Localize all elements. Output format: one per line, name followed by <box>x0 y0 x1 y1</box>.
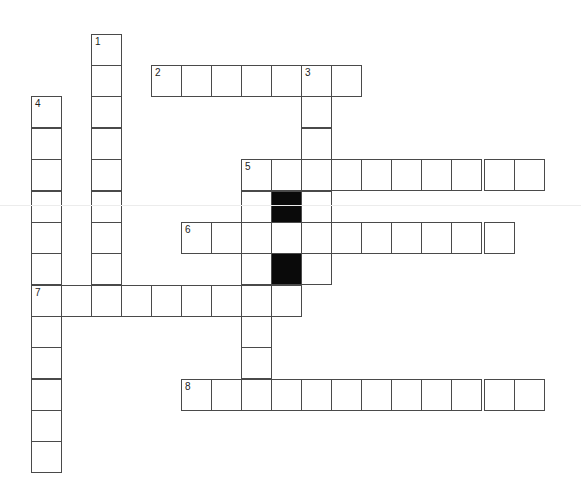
black-cell <box>271 253 302 285</box>
crossword-cell[interactable] <box>331 379 362 411</box>
crossword-cell[interactable] <box>301 96 332 128</box>
crossword-cell[interactable] <box>211 379 242 411</box>
crossword-cell[interactable] <box>91 128 122 160</box>
crossword-cell[interactable] <box>31 159 62 191</box>
crossword-cell[interactable] <box>31 410 62 442</box>
crossword-cell[interactable] <box>301 379 332 411</box>
crossword-cell[interactable] <box>91 285 122 317</box>
crossword-cell[interactable] <box>151 285 182 317</box>
crossword-cell[interactable] <box>181 65 212 97</box>
scan-artifact-line <box>0 205 581 206</box>
crossword-cell[interactable] <box>91 191 122 223</box>
crossword-cell[interactable] <box>91 222 122 254</box>
crossword-cell[interactable] <box>301 253 332 285</box>
crossword-cell[interactable] <box>484 379 515 411</box>
crossword-cell[interactable] <box>241 191 272 223</box>
crossword-cell[interactable] <box>484 222 515 254</box>
crossword-cell[interactable] <box>451 379 482 411</box>
crossword-cell[interactable] <box>31 316 62 348</box>
clue-number: 1 <box>95 37 101 47</box>
crossword-cell[interactable]: 5 <box>241 159 272 191</box>
crossword-cell[interactable] <box>31 222 62 254</box>
clue-number: 4 <box>35 99 41 109</box>
crossword-cell[interactable] <box>391 159 422 191</box>
crossword-cell[interactable] <box>241 253 272 285</box>
crossword-cell[interactable] <box>241 65 272 97</box>
crossword-cell[interactable] <box>271 159 302 191</box>
crossword-cell[interactable] <box>271 65 302 97</box>
crossword-cell[interactable] <box>451 222 482 254</box>
crossword-cell[interactable] <box>241 379 272 411</box>
crossword-cell[interactable] <box>241 347 272 379</box>
crossword-cell[interactable] <box>271 285 302 317</box>
crossword-cell[interactable] <box>421 222 452 254</box>
crossword-cell[interactable] <box>211 285 242 317</box>
crossword-cell[interactable] <box>91 159 122 191</box>
clue-number: 6 <box>185 225 191 235</box>
crossword-cell[interactable]: 2 <box>151 65 182 97</box>
crossword-cell[interactable] <box>91 96 122 128</box>
crossword-cell[interactable] <box>361 222 392 254</box>
crossword-cell[interactable] <box>181 285 212 317</box>
crossword-cell[interactable] <box>361 159 392 191</box>
crossword-cell[interactable] <box>31 441 62 473</box>
crossword-cell[interactable] <box>514 379 545 411</box>
crossword-cell[interactable] <box>241 222 272 254</box>
crossword-cell[interactable] <box>331 65 362 97</box>
clue-number: 5 <box>245 162 251 172</box>
crossword-cell[interactable]: 7 <box>31 285 62 317</box>
crossword-cell[interactable] <box>211 222 242 254</box>
crossword-cell[interactable] <box>331 222 362 254</box>
crossword-cell[interactable] <box>271 379 302 411</box>
crossword-cell[interactable] <box>31 347 62 379</box>
crossword-cell[interactable]: 6 <box>181 222 212 254</box>
clue-number: 8 <box>185 382 191 392</box>
crossword-cell[interactable]: 3 <box>301 65 332 97</box>
crossword-cell[interactable] <box>271 222 302 254</box>
crossword-cell[interactable] <box>391 222 422 254</box>
crossword-cell[interactable] <box>451 159 482 191</box>
crossword-cell[interactable] <box>31 191 62 223</box>
crossword-cell[interactable] <box>91 253 122 285</box>
crossword-cell[interactable] <box>514 159 545 191</box>
crossword-cell[interactable]: 4 <box>31 96 62 128</box>
crossword-cell[interactable] <box>31 128 62 160</box>
crossword-cell[interactable] <box>301 128 332 160</box>
crossword-cell[interactable] <box>331 159 362 191</box>
black-cell <box>271 191 302 223</box>
crossword-cell[interactable] <box>61 285 92 317</box>
crossword-cell[interactable] <box>241 316 272 348</box>
clue-number: 2 <box>155 68 161 78</box>
crossword-cell[interactable] <box>301 159 332 191</box>
crossword-cell[interactable] <box>31 379 62 411</box>
crossword-cell[interactable] <box>301 191 332 223</box>
crossword-cell[interactable] <box>241 285 272 317</box>
crossword-cell[interactable] <box>421 159 452 191</box>
crossword-cell[interactable] <box>421 379 452 411</box>
clue-number: 3 <box>305 68 311 78</box>
crossword-cell[interactable] <box>391 379 422 411</box>
crossword-cell[interactable]: 8 <box>181 379 212 411</box>
crossword-cell[interactable] <box>121 285 152 317</box>
crossword-cell[interactable]: 1 <box>91 34 122 66</box>
clue-number: 7 <box>35 288 41 298</box>
crossword-cell[interactable] <box>484 159 515 191</box>
crossword-grid: 12347568 <box>0 0 581 496</box>
crossword-cell[interactable] <box>31 253 62 285</box>
crossword-cell[interactable] <box>211 65 242 97</box>
crossword-cell[interactable] <box>301 222 332 254</box>
crossword-cell[interactable] <box>361 379 392 411</box>
crossword-cell[interactable] <box>91 65 122 97</box>
